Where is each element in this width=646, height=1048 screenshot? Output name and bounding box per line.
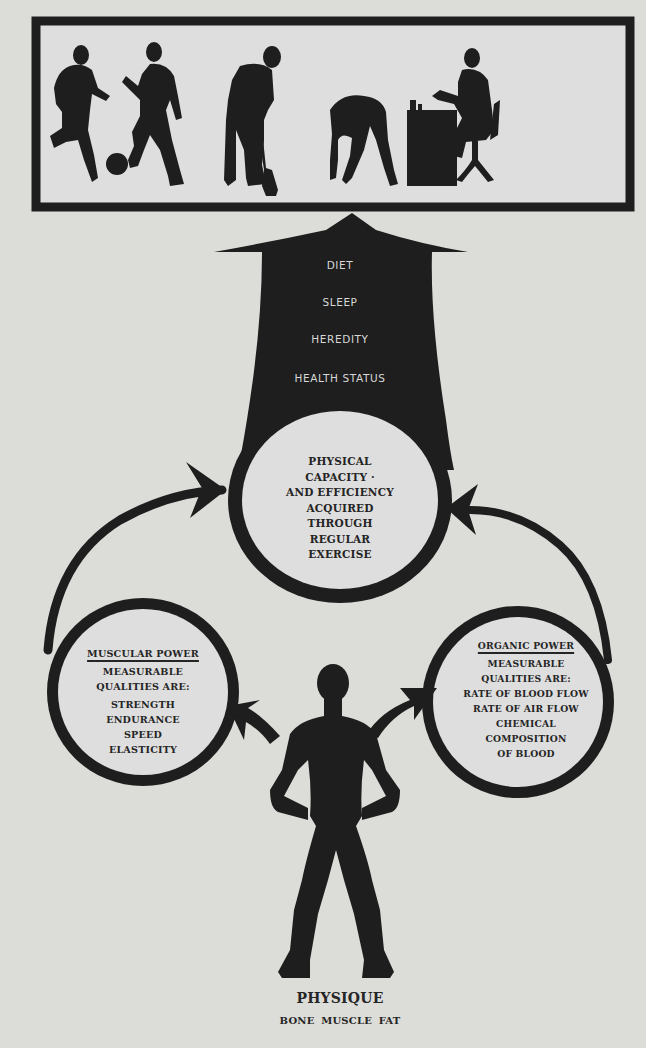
muscular-subheading: MEASURABLE — [58, 664, 228, 679]
organic-subheading: QUALITIES ARE: — [440, 671, 612, 686]
center-line: AND EFFICIENCY — [245, 485, 435, 501]
muscular-subheading: QUALITIES ARE: — [58, 679, 228, 694]
factor-health-status: HEALTH STATUS — [240, 372, 440, 384]
organic-quality: RATE OF AIR FLOW — [440, 701, 612, 716]
center-line: THROUGH — [245, 516, 435, 532]
muscular-quality: SPEED — [58, 727, 228, 742]
center-line: EXERCISE — [245, 547, 435, 563]
muscular-power-heading: MUSCULAR POWER — [58, 646, 228, 661]
ball-icon — [106, 153, 128, 175]
factor-heredity: HEREDITY — [240, 333, 440, 345]
physique-to-muscular-arrow — [228, 700, 280, 744]
physique-title: PHYSIQUE — [240, 990, 440, 1006]
center-circle-text: PHYSICAL CAPACITY · AND EFFICIENCY ACQUI… — [245, 454, 435, 563]
muscular-quality: ELASTICITY — [58, 742, 228, 757]
factor-diet: DIET — [240, 259, 440, 271]
physique-components: BONE MUSCLE FAT — [230, 1015, 450, 1026]
organic-power-heading: ORGANIC POWER — [440, 638, 612, 653]
factor-sleep: SLEEP — [240, 296, 440, 308]
muscular-quality: ENDURANCE — [58, 712, 228, 727]
center-line: ACQUIRED — [245, 501, 435, 517]
organic-quality: OF BLOOD — [440, 746, 612, 761]
organic-power-text: ORGANIC POWER MEASURABLE QUALITIES ARE: … — [440, 638, 612, 761]
center-line: PHYSICAL — [245, 454, 435, 470]
organic-subheading: MEASURABLE — [440, 656, 612, 671]
center-line: REGULAR — [245, 532, 435, 548]
muscular-quality: STRENGTH — [58, 697, 228, 712]
organic-quality: RATE OF BLOOD FLOW — [440, 686, 612, 701]
center-line: CAPACITY · — [245, 470, 435, 486]
physique-figure-icon — [270, 664, 400, 978]
muscular-power-text: MUSCULAR POWER MEASURABLE QUALITIES ARE:… — [58, 646, 228, 757]
organic-quality: CHEMICAL — [440, 716, 612, 731]
organic-quality: COMPOSITION — [440, 731, 612, 746]
